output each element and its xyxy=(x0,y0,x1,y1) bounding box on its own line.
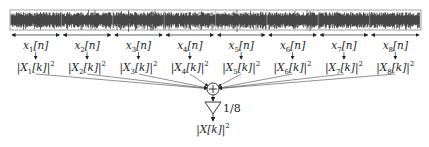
segment-time-label: x6[n] xyxy=(280,40,305,54)
segment-time-label: x8[n] xyxy=(383,40,408,54)
segment-spectrum-label: |X8[k]|2 xyxy=(376,61,414,76)
segment-time-label: x7[n] xyxy=(331,40,356,54)
segment-spectrum-label: |X2[k]|2 xyxy=(68,61,106,76)
segment-spectrum-label: |X1[k]|2 xyxy=(17,61,55,76)
segment-time-label: x2[n] xyxy=(74,40,99,54)
gain-label: 1/8 xyxy=(223,103,241,114)
segment-time-label: x5[n] xyxy=(229,40,254,54)
segment-spectrum-label: |X7[k]|2 xyxy=(325,61,363,76)
segment-spectrum-label: |X4[k]|2 xyxy=(171,61,209,76)
signal-waveform xyxy=(10,10,421,32)
segment-time-label: x3[n] xyxy=(126,40,151,54)
gain-triangle xyxy=(205,102,221,114)
segment-spectrum-label: |X3[k]|2 xyxy=(119,61,157,76)
summing-junction xyxy=(207,83,219,95)
segment-spectrum-label: |X6[k]|2 xyxy=(274,61,312,76)
segment-time-label: x1[n] xyxy=(23,40,48,54)
output-label: |X[k]|2 xyxy=(196,123,230,134)
segment-time-label: x4[n] xyxy=(177,40,202,54)
segment-spectrum-label: |X5[k]|2 xyxy=(222,61,260,76)
